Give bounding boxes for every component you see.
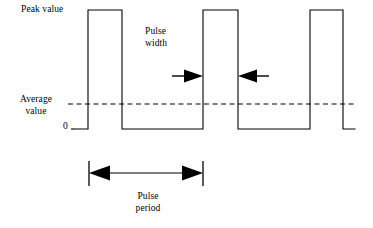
pulse-width-right-arrow <box>238 70 269 83</box>
label-pulse-width: Pulse width <box>145 26 167 49</box>
pulse-waveform-diagram: Peak value Average value 0 Pulse width P… <box>0 0 373 228</box>
label-pulse-period: Pulse period <box>122 191 174 214</box>
pulse-period-double-arrow <box>89 166 203 181</box>
label-zero-baseline: 0 <box>63 121 68 133</box>
pulse-width-left-arrow <box>172 70 203 83</box>
label-peak-value: Peak value <box>21 4 63 16</box>
pulse-train-waveform <box>74 10 355 129</box>
label-average-value: Average value <box>12 94 60 117</box>
